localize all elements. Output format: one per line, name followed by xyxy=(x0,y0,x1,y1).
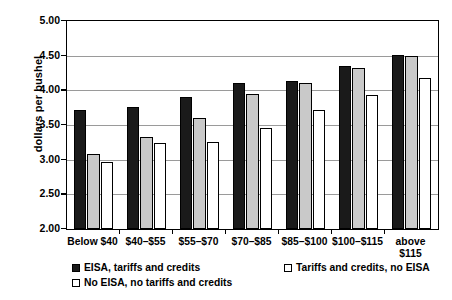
bar xyxy=(392,55,405,229)
y-axis-tick-label: 3.00 xyxy=(24,153,60,165)
legend-item: EISA, tariffs and credits xyxy=(72,262,200,273)
y-axis-tick-mark xyxy=(61,193,66,194)
y-axis-tick-mark xyxy=(61,55,66,56)
y-axis-tick-mark xyxy=(61,159,66,160)
bar xyxy=(154,143,167,229)
bar xyxy=(127,107,140,229)
x-axis-category-label: $85–$100 xyxy=(278,236,331,248)
legend-item: No EISA, no tariffs and credits xyxy=(72,277,232,288)
x-axis-category-label: $55–$70 xyxy=(172,236,225,248)
bar-chart: dollars per bushel 5.004.504.003.503.002… xyxy=(0,0,452,300)
y-axis-tick-mark xyxy=(61,20,66,21)
bar xyxy=(299,83,312,229)
y-axis-tick-mark xyxy=(61,124,66,125)
x-axis-category-label: above $115 xyxy=(384,236,437,260)
x-axis-tick-mark xyxy=(384,229,385,234)
bar xyxy=(352,68,365,229)
y-axis-tick-label: 4.50 xyxy=(24,49,60,61)
y-axis-tick-mark xyxy=(61,89,66,90)
bar xyxy=(140,137,153,229)
x-axis-tick-mark xyxy=(331,229,332,234)
plot-area xyxy=(66,20,439,230)
y-axis-tick-label: 5.00 xyxy=(24,14,60,26)
bar xyxy=(260,128,273,229)
bar xyxy=(180,97,193,229)
bar xyxy=(419,78,432,229)
plot-inner xyxy=(67,21,438,229)
bar xyxy=(246,94,259,229)
bar xyxy=(101,162,114,229)
y-axis-tick-label: 2.00 xyxy=(24,222,60,234)
legend-label: No EISA, no tariffs and credits xyxy=(84,277,232,288)
x-axis-category-label: $70–$85 xyxy=(225,236,278,248)
bar xyxy=(405,56,418,229)
bar xyxy=(207,142,220,229)
x-axis-category-label: $40–$55 xyxy=(119,236,172,248)
bar xyxy=(339,66,352,229)
bar xyxy=(286,81,299,229)
gridline xyxy=(67,56,438,57)
x-axis-tick-mark xyxy=(119,229,120,234)
legend-swatch-icon xyxy=(284,264,292,272)
x-axis-tick-mark xyxy=(172,229,173,234)
x-axis-tick-mark xyxy=(278,229,279,234)
bar xyxy=(233,83,246,229)
gridline xyxy=(67,90,438,91)
bar xyxy=(193,118,206,229)
legend-swatch-icon xyxy=(72,279,80,287)
legend-swatch-icon xyxy=(72,264,80,272)
y-axis-tick-label: 2.50 xyxy=(24,187,60,199)
bar xyxy=(87,154,100,229)
x-axis-category-label: Below $40 xyxy=(66,236,119,248)
y-axis-tick-mark xyxy=(61,228,66,229)
chart-legend: EISA, tariffs and creditsTariffs and cre… xyxy=(72,262,442,296)
bar xyxy=(313,110,326,229)
y-axis-tick-label: 4.00 xyxy=(24,83,60,95)
legend-item: Tariffs and credits, no EISA xyxy=(284,262,430,273)
bar xyxy=(74,110,87,229)
x-axis-category-label: $100–$115 xyxy=(331,236,384,248)
y-axis-tick-labels: 5.004.504.003.503.002.502.00 xyxy=(22,20,60,228)
legend-label: Tariffs and credits, no EISA xyxy=(296,262,430,273)
x-axis-tick-mark xyxy=(225,229,226,234)
y-axis-tick-label: 3.50 xyxy=(24,118,60,130)
bar xyxy=(366,95,379,230)
legend-label: EISA, tariffs and credits xyxy=(84,262,200,273)
